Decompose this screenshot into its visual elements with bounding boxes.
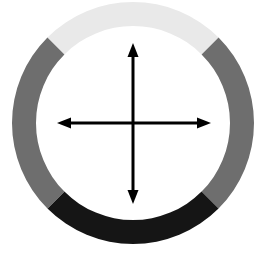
ring-diagram-canvas bbox=[0, 0, 262, 255]
figure-background bbox=[0, 0, 262, 255]
ring-diagram-figure bbox=[0, 0, 262, 255]
